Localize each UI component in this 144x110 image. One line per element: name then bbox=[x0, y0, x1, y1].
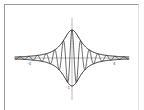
x-tick-label-right: 4 bbox=[113, 62, 116, 66]
x-tick-label-left: -4 bbox=[27, 62, 31, 66]
y-tick-label-bottom: -1 bbox=[66, 86, 70, 90]
damped-oscillation-plot bbox=[0, 0, 144, 110]
